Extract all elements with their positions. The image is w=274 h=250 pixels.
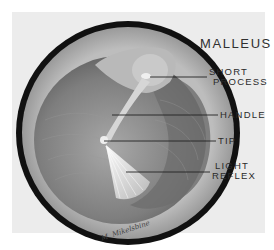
label-short-process: SHORT PROCESS: [209, 67, 268, 87]
umbo: [100, 136, 108, 144]
short-process: [132, 54, 168, 86]
label-handle: HANDLE: [220, 110, 266, 120]
figure-title: MALLEUS: [200, 39, 272, 49]
label-tip: TIP: [218, 136, 236, 146]
label-light-reflex: LIGHT REFLEX: [212, 161, 256, 181]
